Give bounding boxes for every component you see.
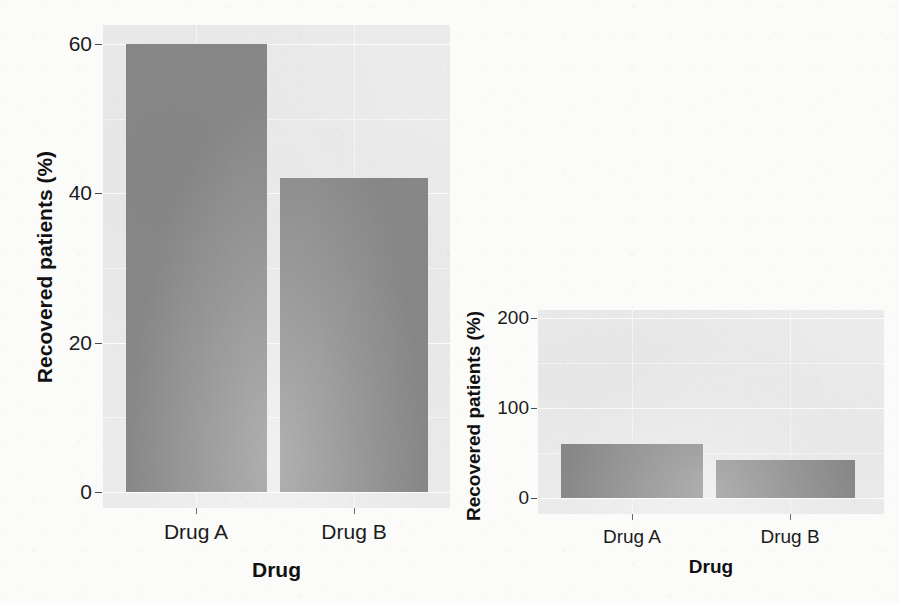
chart-left: 60 40 20 0 Drug A Drug B Drug Recovered … bbox=[0, 0, 455, 603]
plot-area-right bbox=[538, 310, 884, 514]
xtick-mark-drug-a bbox=[632, 514, 633, 520]
ytick-mark-200 bbox=[531, 318, 537, 319]
x-axis-title-right: Drug bbox=[538, 556, 884, 578]
xtick-label-drug-a: Drug A bbox=[557, 526, 707, 548]
gridline-y-200 bbox=[538, 318, 884, 319]
gridline-y-0 bbox=[103, 492, 450, 493]
y-axis-title-right: Recovered patients (%) bbox=[463, 296, 485, 536]
xtick-mark-drug-a bbox=[196, 508, 197, 514]
x-axis-title-left: Drug bbox=[103, 558, 450, 582]
xtick-label-drug-a: Drug A bbox=[121, 520, 271, 544]
ytick-mark-40 bbox=[95, 193, 102, 194]
ytick-mark-0 bbox=[531, 498, 537, 499]
plot-area-left bbox=[103, 25, 450, 508]
gridline-y-150 bbox=[538, 363, 884, 364]
gridline-y-100 bbox=[538, 408, 884, 409]
bar-drug-b bbox=[280, 178, 428, 492]
ytick-label-60: 60 bbox=[22, 32, 92, 56]
ytick-mark-20 bbox=[95, 343, 102, 344]
xtick-label-drug-b: Drug B bbox=[715, 526, 865, 548]
ytick-label-0: 0 bbox=[22, 480, 92, 504]
gridline-y-0 bbox=[538, 498, 884, 499]
bar-drug-b bbox=[716, 460, 855, 498]
ytick-mark-60 bbox=[95, 44, 102, 45]
chart-right: 200 100 0 Drug A Drug B Drug Recovered p… bbox=[455, 0, 899, 603]
bar-drug-a bbox=[561, 444, 703, 498]
y-axis-title-left: Recovered patients (%) bbox=[33, 102, 57, 432]
xtick-mark-drug-b bbox=[790, 514, 791, 520]
ytick-mark-0 bbox=[95, 492, 102, 493]
ytick-mark-100 bbox=[531, 408, 537, 409]
bar-drug-a bbox=[126, 44, 267, 492]
xtick-label-drug-b: Drug B bbox=[279, 520, 429, 544]
xtick-mark-drug-b bbox=[354, 508, 355, 514]
